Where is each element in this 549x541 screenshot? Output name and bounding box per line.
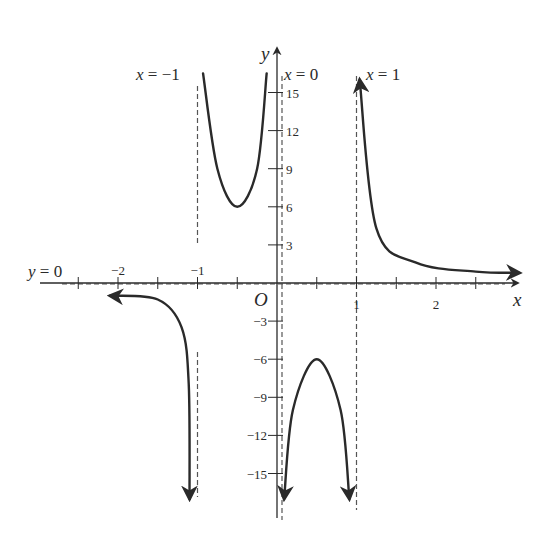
y-tick-label: −6 [253,352,267,367]
curve-branch-3 [284,359,349,499]
rational-function-graph: −2−1121512963−3−6−9−12−15 x y O x = −1 x… [0,0,549,541]
y-tick-label: 15 [286,86,299,101]
function-curves [110,73,519,498]
asymptote-label-y-0: y = 0 [26,262,62,281]
asymptote-label-x-1: x = 1 [365,65,400,84]
x-axis-label: x [512,289,522,310]
origin-label: O [254,289,268,310]
y-tick-label: −3 [253,314,267,329]
y-axis-label: y [259,43,270,64]
x-tick-label: −1 [191,263,205,278]
x-tick-label: 2 [433,297,440,312]
x-tick-label: −2 [111,263,125,278]
curve-branch-4 [360,80,520,273]
y-tick-label: 9 [286,162,293,177]
chart-figure: −2−1121512963−3−6−9−12−15 x y O x = −1 x… [0,0,549,541]
asymptote-label-x-0: x = 0 [283,65,318,84]
y-tick-label: 6 [286,200,293,215]
axes [40,48,518,518]
asymptote-label-x-neg1: x = −1 [135,65,180,84]
curve-branch-2 [203,73,267,206]
y-tick-label: −12 [247,428,267,443]
y-tick-label: −15 [247,467,267,482]
y-tick-label: −9 [253,390,267,405]
curve-branch-1 [110,296,190,499]
y-tick-label: 3 [286,238,293,253]
x-tick-label: 1 [353,297,360,312]
y-tick-label: 12 [286,124,299,139]
